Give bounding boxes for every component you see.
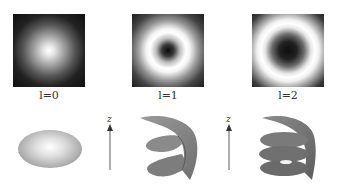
intensity-profile-l1: [132, 14, 204, 87]
helix-l2: [252, 114, 320, 184]
z-axis-arrow-icon: [224, 124, 234, 170]
intensity-profile-l0: [13, 14, 85, 87]
z-axis-label-1: z: [107, 114, 112, 124]
panel-label-l2: l=2: [252, 89, 324, 102]
panel-label-l0: l=0: [13, 89, 85, 102]
z-axis-arrow-icon: [105, 124, 115, 170]
panel-label-l1: l=1: [132, 89, 204, 102]
ellipsoid-l0: [18, 130, 82, 168]
z-axis-label-2: z: [226, 114, 231, 124]
intensity-profile-l2: [252, 14, 324, 87]
helix-l1: [132, 114, 204, 184]
